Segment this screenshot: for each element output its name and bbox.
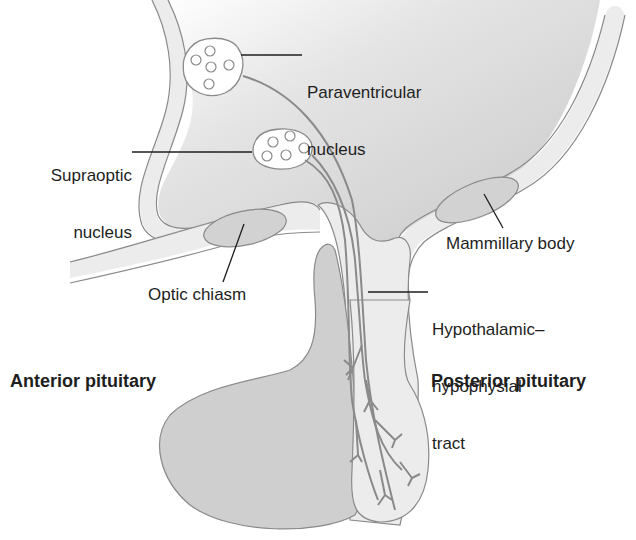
label-mammillary-body: Mammillary body bbox=[446, 234, 574, 253]
label-supraoptic-nucleus: Supraoptic nucleus bbox=[32, 128, 132, 280]
label-posterior-pituitary: Posterior pituitary bbox=[431, 372, 586, 391]
label-paraventricular-nucleus: Paraventricular nucleus bbox=[307, 45, 421, 197]
label-line: Hypothalamic– bbox=[432, 320, 544, 339]
label-anterior-pituitary: Anterior pituitary bbox=[10, 372, 156, 391]
label-line: Supraoptic bbox=[32, 166, 132, 185]
label-line: tract bbox=[432, 434, 544, 453]
label-optic-chiasm: Optic chiasm bbox=[148, 285, 246, 304]
label-line: Paraventricular bbox=[307, 83, 421, 102]
label-line: nucleus bbox=[32, 223, 132, 242]
label-line: nucleus bbox=[307, 140, 421, 159]
hypothalamus-pituitary-diagram: Paraventricular nucleus Supraoptic nucle… bbox=[0, 0, 636, 540]
